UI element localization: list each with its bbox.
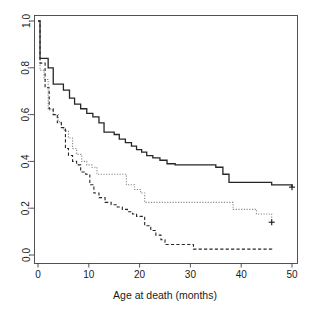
y-axis-tick-label: 0.4 — [21, 154, 32, 168]
x-axis-title: Age at death (months) — [113, 289, 217, 301]
x-axis-tick-label: 40 — [236, 269, 248, 280]
y-axis-tick-label: 1.0 — [21, 14, 32, 28]
y-axis-tick-label: 0.6 — [21, 107, 32, 121]
x-axis-tick-label: 10 — [83, 269, 95, 280]
survival-curve-dashed-curve — [38, 21, 272, 250]
y-axis-tick-label: 0.2 — [21, 201, 32, 215]
x-axis-tick-label: 30 — [185, 269, 197, 280]
survival-plot-figure: 010203040500.00.20.40.60.81.0Age at deat… — [0, 0, 313, 315]
x-axis-tick-label: 20 — [134, 269, 146, 280]
x-axis-tick-label: 50 — [286, 269, 298, 280]
y-axis-tick-label: 0.0 — [21, 248, 32, 262]
survival-curve-dotted-gray-curve — [38, 21, 272, 222]
plot-canvas: 010203040500.00.20.40.60.81.0Age at deat… — [0, 0, 313, 315]
y-axis-tick-label: 0.8 — [21, 60, 32, 74]
plot-box-frame — [35, 16, 298, 264]
x-axis-tick-label: 0 — [35, 269, 41, 280]
